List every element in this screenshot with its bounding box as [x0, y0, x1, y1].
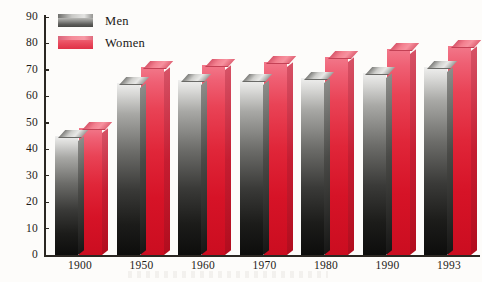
x-axis-label-1990: 1990	[356, 259, 420, 271]
y-axis-tick-label: 0	[12, 249, 38, 261]
scan-artifact	[128, 271, 328, 278]
bar-men-1980	[301, 78, 324, 255]
y-axis-tick-label: 30	[12, 170, 38, 182]
y-axis-tick-label: 20	[12, 196, 38, 208]
women-swatch-icon	[58, 36, 93, 49]
y-axis-tick-label: 90	[12, 11, 38, 23]
legend-label-men: Men	[105, 12, 129, 31]
bar-men-1970	[240, 80, 263, 255]
bar-men-1990	[363, 73, 386, 255]
x-axis-label-1960: 1960	[171, 259, 235, 271]
y-axis-tick-label: 50	[12, 117, 38, 129]
bar-men-1960	[178, 80, 201, 255]
bar-men-1993	[424, 67, 447, 255]
y-axis-tick-label: 80	[12, 37, 38, 49]
y-axis-tick-label: 70	[12, 64, 38, 76]
x-axis-label-1950: 1950	[110, 259, 174, 271]
bar-men-1950	[117, 83, 140, 255]
x-axis-label-1993: 1993	[417, 259, 481, 271]
bar-chart-screenshot: 0102030405060708090 19001950196019701980…	[0, 0, 482, 282]
y-axis-tick-label: 10	[12, 223, 38, 235]
x-axis-label-1900: 1900	[48, 259, 112, 271]
y-axis-tick-label: 60	[12, 90, 38, 102]
x-axis-line	[44, 255, 480, 257]
men-swatch-icon	[58, 14, 93, 27]
x-axis-label-1980: 1980	[294, 259, 358, 271]
x-axis-label-1970: 1970	[233, 259, 297, 271]
legend-label-women: Women	[105, 34, 145, 53]
y-axis-tick-label: 40	[12, 143, 38, 155]
bar-men-1900	[55, 136, 78, 255]
